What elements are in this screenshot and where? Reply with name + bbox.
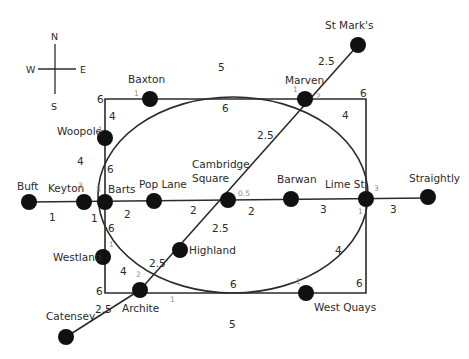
rectangle-line: [105, 99, 366, 293]
degree-limest-bottom: 1: [358, 207, 363, 216]
station-node-marven: [297, 91, 313, 107]
compass-east-label: E: [80, 64, 86, 75]
station-node-barwan: [283, 191, 299, 207]
weight-archite-westquays-arc: 5: [229, 318, 236, 330]
station-label-buft: Buft: [17, 180, 39, 192]
degree-keyton: 3: [78, 181, 83, 190]
weight-barwan-limest: 3: [320, 203, 327, 215]
station-node-catensey: [58, 329, 74, 345]
station-node-cambridge: [220, 192, 236, 208]
compass-west-label: W: [26, 64, 36, 75]
degree-cambridge: 0.5: [238, 189, 250, 198]
weight-rect-top-right: 6: [360, 87, 367, 99]
station-label-cambridge-line2: Square: [192, 172, 229, 184]
compass-north-label: N: [51, 31, 58, 42]
degree-woopole: 1: [98, 125, 103, 134]
weight-rect-top-left: 6: [97, 93, 104, 105]
weight-baxton-marven-straight: 6: [222, 102, 229, 114]
compass-south-label: S: [51, 101, 57, 112]
station-label-woopole: Woopole: [57, 125, 102, 137]
weight-barts-westland: 6: [108, 222, 115, 234]
weight-westland-archite: 4: [120, 265, 127, 277]
weight-baxton-marven-arc: 5: [218, 61, 225, 73]
station-label-baxton: Baxton: [128, 73, 165, 85]
weight-marven-cambridge: 2.5: [257, 129, 274, 141]
weight-archite-westquays-straight: 6: [230, 278, 237, 290]
weight-rect-bottom-right: 6: [356, 277, 363, 289]
station-label-straightly: Straightly: [409, 172, 460, 184]
degree-archite-top: 2: [136, 270, 141, 279]
station-label-barwan: Barwan: [277, 173, 317, 185]
weight-woopole-barts: 6: [107, 163, 114, 175]
station-node-stmarks: [350, 37, 366, 53]
station-label-westquays: West Quays: [314, 301, 376, 313]
station-label-westland: Westland: [53, 251, 102, 263]
weight-cambridge-highland: 2.5: [212, 222, 229, 234]
network-diagram: N S E W 5 6 2.5 2.5 4 6 6 4 4 6 1 1 2 6 …: [0, 0, 469, 359]
station-label-cambridge-line1: Cambridge: [192, 158, 250, 170]
station-label-archite: Archite: [122, 302, 159, 314]
station-label-barts: Barts: [108, 183, 136, 195]
weight-woopole-keyton: 4: [77, 155, 84, 167]
weight-archite-catensey: 2.5: [95, 303, 112, 315]
weight-barts-poplane: 2: [124, 208, 131, 220]
degree-baxton: 1: [134, 89, 139, 98]
degree-barts: 3: [96, 185, 101, 194]
degree-marven-left: 1: [293, 85, 298, 94]
degree-limest-top: 3: [374, 184, 379, 193]
station-node-buft: [21, 194, 37, 210]
station-label-catensey: Catensey: [46, 310, 95, 322]
weight-keyton-westland: 1: [91, 212, 98, 224]
station-label-highland: Highland: [189, 244, 236, 256]
weight-poplane-cambridge: 2: [190, 204, 197, 216]
weight-highland-archite: 2.5: [149, 257, 166, 269]
station-label-poplane: Pop Lane: [139, 178, 187, 190]
weight-buft-keyton: 1: [49, 211, 56, 223]
station-node-archite: [132, 282, 148, 298]
compass: N S E W: [26, 31, 86, 112]
station-node-highland: [172, 242, 188, 258]
station-node-baxton: [142, 91, 158, 107]
station-node-barts: [97, 194, 113, 210]
degree-westquays: 1: [296, 277, 301, 286]
station-label-marven: Marven: [285, 74, 324, 86]
station-node-limest: [358, 191, 374, 207]
weight-limest-straightly: 3: [390, 203, 397, 215]
station-label-limest: Lime St: [325, 178, 365, 190]
weight-rect-bottom-left: 6: [96, 285, 103, 297]
station-node-straightly: [420, 189, 436, 205]
degree-marven-right: 2: [316, 92, 321, 101]
station-label-stmarks: St Mark's: [325, 19, 373, 31]
station-node-poplane: [146, 193, 162, 209]
weight-cambridge-barwan: 2: [248, 205, 255, 217]
weight-marven-stmarks: 2.5: [318, 55, 335, 67]
weight-marven-limest-arc: 4: [342, 109, 349, 121]
weight-westquays-limest-arc: 4: [335, 244, 342, 256]
degree-archite-right: 1: [170, 295, 175, 304]
degree-westland: 1: [109, 240, 114, 249]
station-node-keyton: [76, 194, 92, 210]
weight-baxton-woopole: 4: [109, 110, 116, 122]
station-node-westquays: [298, 285, 314, 301]
